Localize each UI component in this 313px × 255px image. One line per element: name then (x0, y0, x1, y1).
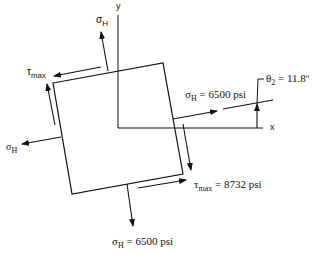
sigma-left-arrow (22, 137, 61, 144)
subscript: 2 (271, 78, 275, 87)
sigma-left-label: σH (6, 142, 17, 152)
tau-right-arrow (183, 124, 191, 170)
y-axis-label: y (116, 2, 121, 11)
subscript: H (191, 94, 197, 103)
sigma-top-label: σH (96, 15, 108, 25)
sigma-value: = 6500 psi (199, 88, 246, 100)
theta-value: = 11.8 (278, 72, 306, 84)
theta-leader-line (257, 79, 264, 104)
subscript: max (31, 71, 46, 80)
tau-value: = 8732 psi (215, 178, 262, 190)
angle-reference-line (223, 100, 273, 109)
subscript: max (198, 184, 212, 193)
tau-max-top-label: τmax (27, 67, 46, 77)
x-axis-label: x (270, 123, 275, 132)
coordinate-axes (118, 15, 263, 128)
sigma-bottom-arrow (127, 184, 133, 226)
sigma-right-label: σH = 6500 psi (185, 89, 246, 100)
sigma-right-arrow (173, 111, 217, 119)
sigma-value: = 6500 psi (126, 235, 173, 247)
subscript: H (102, 19, 108, 28)
degree-symbol: o (306, 72, 310, 80)
tau-max-bottom-label: τmax = 8732 psi (194, 179, 262, 190)
sigma-bottom-label: σH = 6500 psi (112, 236, 173, 247)
theta-label: θ2 = 11.8o (266, 73, 309, 84)
tau-top-arrow (54, 67, 101, 76)
sigma-top-arrow (101, 32, 108, 71)
subscript: H (11, 146, 17, 155)
stress-element-diagram (0, 0, 313, 255)
subscript: H (118, 241, 124, 250)
